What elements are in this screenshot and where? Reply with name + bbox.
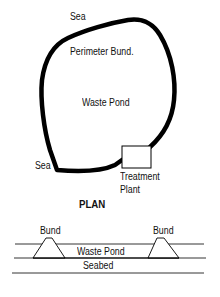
label-treatment: Treatment xyxy=(120,171,160,182)
bund-right-section xyxy=(148,238,179,258)
label-plan-title: PLAN xyxy=(79,198,105,210)
label-perimeter-bund: Perimeter Bund. xyxy=(70,46,134,57)
label-bund-right: Bund xyxy=(153,225,174,236)
label-seabed: Seabed xyxy=(83,260,113,271)
label-bund-left: Bund xyxy=(40,225,61,236)
bund-left-section xyxy=(33,238,65,258)
label-waste-pond-section: Waste Pond xyxy=(77,246,125,257)
treatment-plant-box xyxy=(122,146,151,168)
label-waste-pond-plan: Waste Pond xyxy=(82,97,130,108)
label-plant: Plant xyxy=(120,184,140,195)
label-sea-top: Sea xyxy=(70,11,86,22)
label-sea-left: Sea xyxy=(35,160,51,171)
perimeter-bund-outline xyxy=(41,20,174,172)
